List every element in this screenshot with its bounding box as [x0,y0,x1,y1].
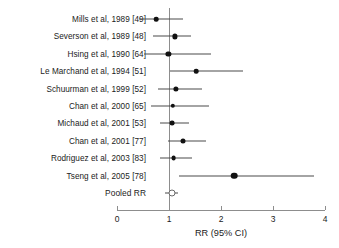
reference-line [169,8,170,210]
x-axis-tick-label: 3 [271,214,276,224]
point-estimate-marker [166,51,171,56]
x-axis-tick-label: 0 [115,214,120,224]
point-estimate-marker [170,104,174,108]
confidence-interval-line [179,175,314,176]
confidence-interval-line [158,88,202,89]
point-estimate-marker [173,34,178,39]
x-axis-line [117,210,325,211]
confidence-interval-line [151,106,209,107]
x-axis-tick-label: 1 [167,214,172,224]
confidence-interval-line [168,140,206,141]
confidence-interval-line [170,71,243,72]
x-axis-tick [273,206,274,210]
x-axis-title: RR (95% CI) [195,228,247,238]
confidence-interval-line [139,19,183,20]
x-axis-tick [221,206,222,210]
pooled-estimate-marker [168,190,175,197]
x-axis-tick [117,206,118,210]
x-axis-tick-label: 2 [219,214,224,224]
x-axis-tick [169,206,170,210]
point-estimate-marker [170,121,175,126]
point-estimate-marker [180,138,185,143]
x-axis-tick-label: 4 [323,214,328,224]
forest-plot-area [0,0,339,248]
confidence-interval-line [144,53,211,54]
x-axis-tick [325,206,326,210]
point-estimate-marker [171,156,176,161]
point-estimate-marker [174,86,179,91]
forest-plot-figure: Mills et al, 1989 [49]Severson et al, 19… [0,0,339,248]
point-estimate-marker [231,172,238,179]
point-estimate-marker [154,17,159,22]
point-estimate-marker [194,69,199,74]
